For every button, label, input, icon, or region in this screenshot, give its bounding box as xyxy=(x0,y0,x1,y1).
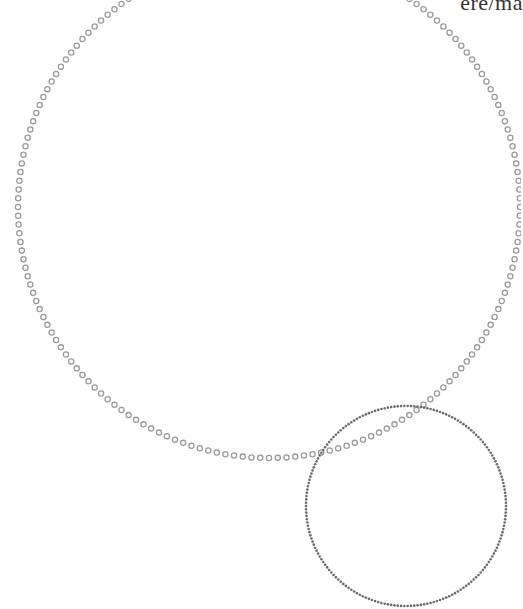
dot-marker xyxy=(482,441,485,444)
dot-marker xyxy=(442,598,445,601)
dot-marker xyxy=(371,599,374,602)
dot-marker xyxy=(448,595,451,598)
dot-marker xyxy=(362,595,365,598)
ring-marker xyxy=(392,422,397,427)
dot-marker xyxy=(445,413,448,416)
ring-marker xyxy=(69,50,74,55)
dot-marker xyxy=(479,438,482,441)
ring-marker xyxy=(258,455,263,460)
ring-marker xyxy=(15,204,20,209)
dot-marker xyxy=(484,566,487,569)
ring-marker xyxy=(459,43,464,48)
dot-marker xyxy=(315,549,318,552)
dot-marker xyxy=(505,505,508,508)
dot-marker xyxy=(486,446,489,449)
dot-marker xyxy=(315,460,318,463)
dot-marker xyxy=(306,492,309,495)
ring-marker xyxy=(479,71,484,76)
ring-marker xyxy=(344,443,349,448)
ring-marker xyxy=(141,422,146,427)
ring-marker xyxy=(17,178,22,183)
ring-marker xyxy=(119,407,124,412)
ring-marker xyxy=(214,450,219,455)
ring-marker xyxy=(368,434,373,439)
dot-marker xyxy=(505,508,508,511)
dot-marker xyxy=(504,518,507,521)
dot-marker xyxy=(312,466,315,469)
dot-marker xyxy=(494,460,497,463)
ring-marker xyxy=(428,12,433,17)
ring-marker xyxy=(499,298,504,303)
ring-marker xyxy=(37,102,42,107)
ring-marker xyxy=(293,454,298,459)
ring-marker xyxy=(275,455,280,460)
ring-marker xyxy=(492,94,497,99)
dot-marker xyxy=(475,576,478,579)
ring-marker xyxy=(512,257,517,262)
dot-marker xyxy=(502,528,505,531)
ring-marker xyxy=(19,161,24,166)
ring-marker xyxy=(54,71,59,76)
dot-marker xyxy=(499,472,502,475)
dot-marker xyxy=(332,574,335,577)
dot-marker xyxy=(400,405,403,408)
dot-marker xyxy=(472,578,475,581)
dot-marker xyxy=(309,475,312,478)
dot-marker xyxy=(462,423,465,426)
ring-marker xyxy=(45,322,50,327)
ring-marker xyxy=(189,443,194,448)
ring-marker xyxy=(474,64,479,69)
ring-marker xyxy=(181,440,186,445)
dot-marker xyxy=(353,419,356,422)
ring-marker xyxy=(464,359,469,364)
ring-marker xyxy=(240,454,245,459)
dot-marker xyxy=(356,418,359,421)
dot-marker xyxy=(350,588,353,591)
dot-marker xyxy=(400,605,403,608)
ring-marker xyxy=(19,248,24,253)
ring-marker xyxy=(58,345,63,350)
ring-marker xyxy=(414,407,419,412)
ring-marker xyxy=(18,169,23,174)
ring-marker xyxy=(133,417,138,422)
dot-marker xyxy=(318,454,321,457)
ring-marker xyxy=(428,397,433,402)
ring-marker xyxy=(510,144,515,149)
ring-marker xyxy=(434,18,439,23)
dot-marker xyxy=(413,405,416,408)
dot-marker xyxy=(420,406,423,409)
ring-marker xyxy=(512,152,517,157)
dot-marker xyxy=(459,588,462,591)
ring-marker xyxy=(119,1,124,6)
ring-marker xyxy=(516,178,521,183)
ring-marker xyxy=(31,119,36,124)
ring-marker xyxy=(105,12,110,17)
dot-marker xyxy=(497,466,500,469)
dot-marker xyxy=(503,488,506,491)
dot-marker xyxy=(311,540,314,543)
ring-marker xyxy=(447,379,452,384)
dot-marker xyxy=(383,602,386,605)
ring-marker xyxy=(488,87,493,92)
dot-marker xyxy=(326,566,329,569)
dot-marker xyxy=(387,603,390,606)
dot-marker xyxy=(470,580,473,583)
ring-marker xyxy=(16,187,21,192)
ring-marker xyxy=(517,222,521,227)
ring-marker xyxy=(34,298,39,303)
ring-marker xyxy=(25,135,30,140)
dot-marker xyxy=(436,600,439,603)
ring-marker xyxy=(459,366,464,371)
dot-marker xyxy=(305,505,308,508)
ring-marker xyxy=(17,231,22,236)
dot-marker xyxy=(306,518,309,521)
ring-marker xyxy=(514,161,519,166)
ring-marker xyxy=(399,417,404,422)
ring-marker xyxy=(34,110,39,115)
dot-marker xyxy=(439,411,442,414)
dot-marker xyxy=(496,463,499,466)
dot-marker xyxy=(477,574,480,577)
ring-marker xyxy=(63,352,68,357)
dot-marker xyxy=(498,469,501,472)
ring-marker xyxy=(49,330,54,335)
